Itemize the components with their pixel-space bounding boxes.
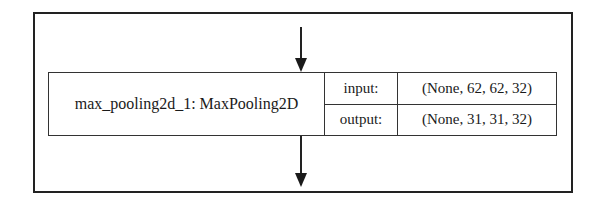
output-shape: (None, 31, 31, 32) <box>398 105 556 136</box>
layer-node: max_pooling2d_1: MaxPooling2D input: out… <box>48 72 557 136</box>
outgoing-arrow-head-icon <box>295 173 307 187</box>
incoming-arrow-head-icon <box>295 58 307 72</box>
io-values-column: (None, 62, 62, 32) (None, 31, 31, 32) <box>398 73 556 135</box>
layer-name: max_pooling2d_1: MaxPooling2D <box>49 73 325 135</box>
input-label: input: <box>325 73 397 105</box>
input-shape: (None, 62, 62, 32) <box>398 73 556 105</box>
outgoing-arrow-line <box>300 136 302 174</box>
io-labels-column: input: output: <box>325 73 398 135</box>
output-label: output: <box>325 105 397 136</box>
incoming-arrow-line <box>300 27 302 59</box>
